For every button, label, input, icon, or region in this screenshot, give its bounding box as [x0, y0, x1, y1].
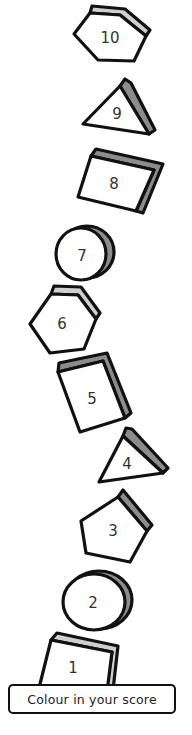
- shape-number-5: 5: [87, 390, 97, 408]
- score-shape-4-triangle[interactable]: 4: [99, 428, 168, 482]
- shape-number-1: 1: [68, 659, 78, 677]
- score-shape-5-square[interactable]: 5: [58, 353, 131, 432]
- score-shapes-stack: 10 9 8 7 6 5 4 3: [0, 0, 192, 735]
- score-shape-6-hexagon[interactable]: 6: [30, 286, 100, 353]
- score-shape-8-square[interactable]: 8: [78, 149, 163, 213]
- shape-number-9: 9: [112, 105, 122, 123]
- shape-number-4: 4: [122, 455, 132, 473]
- score-shape-7-circle[interactable]: 7: [56, 226, 114, 280]
- score-shape-9-triangle[interactable]: 9: [83, 79, 155, 134]
- score-shape-3-pentagon[interactable]: 3: [81, 490, 152, 562]
- shape-number-7: 7: [77, 247, 87, 265]
- score-shape-10-hexagon[interactable]: 10: [74, 6, 150, 61]
- shape-number-10: 10: [100, 29, 119, 47]
- shape-number-2: 2: [88, 594, 98, 612]
- instruction-text: Colour in your score: [27, 692, 157, 707]
- shape-number-8: 8: [109, 175, 119, 193]
- shape-number-6: 6: [57, 315, 67, 333]
- shape-number-3: 3: [108, 522, 118, 540]
- instruction-label: Colour in your score: [8, 684, 176, 714]
- score-shape-2-circle[interactable]: 2: [63, 571, 132, 630]
